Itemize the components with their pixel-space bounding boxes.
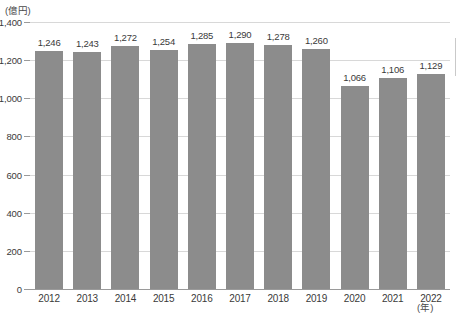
- bar-value-label: 1,254: [152, 36, 175, 47]
- y-axis-tick-mark: [24, 98, 30, 99]
- y-axis-tick-mark: [24, 22, 30, 23]
- x-axis-tick-label: 2018: [267, 293, 288, 304]
- y-axis-tick-mark: [24, 60, 30, 61]
- y-axis-tick-label: 400: [6, 207, 22, 218]
- bar: 1,2722014: [111, 46, 139, 289]
- y-axis-tick-label: 1,400: [0, 17, 22, 28]
- bar: 1,1062021: [379, 78, 407, 289]
- x-axis-tick-label: 2015: [153, 293, 174, 304]
- bar: 1,2852016: [188, 44, 216, 289]
- bar: 1,2782018: [264, 45, 292, 289]
- x-axis-tick-label: 2020: [344, 293, 365, 304]
- x-axis-baseline: [30, 289, 450, 290]
- bar-value-label: 1,278: [267, 31, 290, 42]
- x-axis-tick-label: 2021: [382, 293, 403, 304]
- y-axis-tick-label: 200: [6, 245, 22, 256]
- y-axis-tick-label: 800: [6, 131, 22, 142]
- plot-area: 02004006008001,0001,2001,4001,24620121,2…: [30, 22, 450, 289]
- x-axis-tick-label: 2014: [115, 293, 136, 304]
- y-axis-tick-mark: [24, 213, 30, 214]
- x-axis-tick-label: 2016: [191, 293, 212, 304]
- x-axis-unit-label: (年): [417, 300, 433, 314]
- y-axis-tick-label: 1,200: [0, 55, 22, 66]
- bar-value-label: 1,272: [114, 32, 137, 43]
- bar: 1,1292022: [417, 74, 445, 289]
- bar-value-label: 1,260: [305, 35, 328, 46]
- x-axis-tick-label: 2017: [229, 293, 250, 304]
- y-axis-tick-mark: [24, 175, 30, 176]
- bar-value-label: 1,066: [343, 72, 366, 83]
- x-axis-tick-label: 2012: [38, 293, 59, 304]
- bar-value-label: 1,285: [190, 30, 213, 41]
- bar: 1,2542015: [150, 50, 178, 289]
- bar-value-label: 1,106: [381, 64, 404, 75]
- x-axis-tick-label: 2013: [77, 293, 98, 304]
- y-axis-unit-label: (億円): [5, 3, 31, 17]
- x-axis-tick-label: 2019: [306, 293, 327, 304]
- y-axis-tick-mark: [24, 289, 30, 290]
- bar: 1,2432013: [73, 52, 101, 289]
- bar-value-label: 1,129: [420, 60, 443, 71]
- bar-value-label: 1,290: [229, 29, 252, 40]
- gridline: [30, 22, 450, 23]
- page-edge-artifact: [455, 38, 456, 76]
- y-axis-tick-mark: [24, 136, 30, 137]
- bar: 1,2462012: [35, 51, 63, 289]
- y-axis-tick-label: 1,000: [0, 93, 22, 104]
- bar-value-label: 1,246: [38, 37, 61, 48]
- bar: 1,2602019: [302, 49, 330, 289]
- y-axis-tick-mark: [24, 251, 30, 252]
- bar-chart: (億円) 02004006008001,0001,2001,4001,24620…: [0, 0, 462, 317]
- y-axis-tick-label: 600: [6, 169, 22, 180]
- y-axis-tick-label: 0: [17, 284, 22, 295]
- bar-value-label: 1,243: [76, 38, 99, 49]
- bar: 1,0662020: [341, 86, 369, 289]
- bar: 1,2902017: [226, 43, 254, 289]
